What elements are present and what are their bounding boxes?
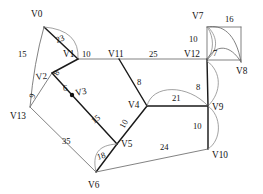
vertex-label-v4: V4 (128, 100, 140, 110)
weight-label-v1-v11: 10 (82, 49, 91, 59)
weight-label-v2-v3: 6 (63, 83, 68, 93)
vertex-label-v5: V5 (121, 139, 133, 149)
weight-label-v2-v13: 9 (27, 92, 38, 100)
vertex-label-layer: V0 V1 V2 V3 V4 V5 V6 V7 V8 V9 V10 V11 V1… (10, 9, 248, 190)
vertex-label-v12: V12 (184, 49, 200, 59)
weight-label-v12-v9: 8 (196, 82, 200, 92)
weight-label-v13-v6: 35 (62, 136, 71, 146)
vertex-label-v6: V6 (88, 180, 100, 190)
vertex-label-v11: V11 (108, 49, 124, 59)
weight-label-v11-v4: 8 (137, 77, 141, 87)
vertex-label-v13: V13 (10, 111, 26, 121)
weight-label-v9-v10: 10 (193, 121, 202, 131)
vertex-label-v3: V3 (74, 86, 88, 98)
weight-label-v7-v8: 16 (225, 14, 234, 24)
graph-canvas: V0 V1 V2 V3 V4 V5 V6 V7 V8 V9 V10 V11 V1… (0, 0, 263, 194)
edge-v9-v10-parallel (208, 106, 219, 149)
edge-v12-v9 (207, 59, 208, 106)
vertex-label-v2: V2 (35, 71, 48, 82)
vertex-label-v9: V9 (212, 102, 224, 112)
node-layer (70, 93, 74, 97)
node-dot-v3[interactable] (70, 93, 74, 97)
vertex-label-v8: V8 (236, 66, 248, 76)
vertex-label-v10: V10 (212, 150, 228, 160)
edge-v12-v9-parallel (207, 61, 218, 106)
weight-label-v7-v12: 10 (189, 34, 198, 44)
edge-v6-v10 (96, 149, 208, 172)
weight-label-v0-v1: 23 (54, 33, 65, 45)
vertex-label-v1: V1 (63, 49, 75, 59)
vertex-label-v7: V7 (192, 11, 204, 21)
weight-label-v12-v8: 7 (213, 48, 218, 58)
weight-label-v0-v13: 15 (18, 49, 27, 59)
weight-label-v3-v5: 15 (89, 112, 102, 125)
weight-label-v4-v9: 21 (172, 93, 181, 103)
graph-diagram: V0 V1 V2 V3 V4 V5 V6 V7 V8 V9 V10 V11 V1… (0, 0, 263, 194)
edge-v11-v4 (119, 59, 147, 106)
weight-label-v6-v10: 24 (160, 142, 169, 152)
weight-label-v11-v12: 25 (149, 49, 158, 59)
vertex-label-v0: V0 (31, 9, 43, 19)
weight-label-v4-v5: 10 (117, 118, 130, 130)
edge-v2-v3 (52, 73, 72, 95)
